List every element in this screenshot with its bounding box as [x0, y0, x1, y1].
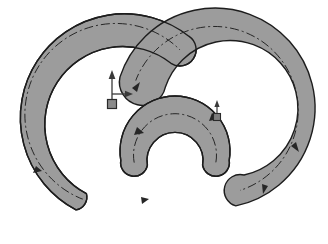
middle-arc-band	[120, 96, 230, 176]
technical-drawing-svg	[0, 0, 328, 244]
secondary-datum-marker	[214, 100, 221, 121]
datum-origin-square-icon	[108, 100, 117, 109]
drawing-canvas	[0, 0, 328, 244]
middle-arc-fill	[120, 96, 230, 176]
secondary-datum-origin-square-icon	[214, 114, 221, 121]
band-group	[0, 0, 328, 244]
direction-arrow-icon	[141, 197, 149, 204]
datum-y-arrowhead-icon	[109, 70, 116, 79]
secondary-datum-y-arrowhead-icon	[214, 100, 219, 107]
